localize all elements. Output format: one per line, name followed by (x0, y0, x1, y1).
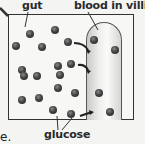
trailing-text: e. (0, 130, 11, 144)
annotation-lines (0, 0, 145, 144)
glucose-label: glucose (44, 128, 90, 141)
